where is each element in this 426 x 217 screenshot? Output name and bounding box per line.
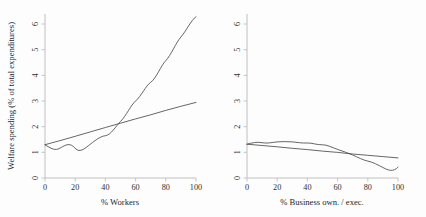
svg-text:20: 20 — [71, 183, 79, 192]
svg-text:5: 5 — [31, 48, 40, 52]
x-tick-marks-left — [45, 178, 196, 182]
svg-text:80: 80 — [364, 183, 372, 192]
y-tick-marks-left — [42, 24, 46, 178]
y-axis-title-welfare-spending: Welfare spending (% of total expenditure… — [6, 22, 16, 170]
y-tick-labels-left: 0 1 2 3 4 5 6 — [31, 22, 40, 180]
x-axis-title-workers: % Workers — [101, 197, 140, 207]
svg-text:0: 0 — [31, 176, 40, 180]
svg-text:6: 6 — [31, 22, 40, 26]
svg-text:40: 40 — [101, 183, 109, 192]
svg-text:0: 0 — [233, 176, 242, 180]
panel-business-owners: 0 1 2 3 4 5 6 0 20 40 — [213, 0, 426, 217]
figure-two-panel-welfare-spending: 0 1 2 3 4 5 6 0 20 40 — [0, 0, 426, 217]
svg-text:5: 5 — [233, 48, 242, 52]
y-tick-labels-right: 0 1 2 3 4 5 6 — [233, 22, 242, 180]
svg-text:3: 3 — [31, 99, 40, 103]
panel-workers: 0 1 2 3 4 5 6 0 20 40 — [0, 0, 213, 217]
curve-left-linear — [45, 102, 196, 144]
svg-text:80: 80 — [162, 183, 170, 192]
svg-text:6: 6 — [233, 22, 242, 26]
svg-text:2: 2 — [31, 125, 40, 129]
y-tick-marks-right — [244, 24, 248, 178]
x-axis-title-business-owners: % Business own. / exec. — [280, 197, 364, 207]
svg-text:2: 2 — [233, 125, 242, 129]
svg-text:20: 20 — [273, 183, 281, 192]
svg-text:3: 3 — [233, 99, 242, 103]
x-tick-marks-right — [247, 178, 398, 182]
svg-text:4: 4 — [31, 73, 40, 77]
svg-text:60: 60 — [132, 183, 140, 192]
x-tick-labels-right: 0 20 40 60 80 100 — [245, 183, 404, 192]
svg-text:40: 40 — [303, 183, 311, 192]
svg-text:100: 100 — [392, 183, 404, 192]
plot-area-workers: 0 1 2 3 4 5 6 0 20 40 — [0, 0, 213, 217]
svg-text:0: 0 — [245, 183, 249, 192]
plot-area-business-owners: 0 1 2 3 4 5 6 0 20 40 — [213, 0, 426, 217]
svg-text:0: 0 — [43, 183, 47, 192]
svg-text:100: 100 — [190, 183, 202, 192]
svg-text:4: 4 — [233, 73, 242, 77]
svg-text:1: 1 — [31, 150, 40, 154]
curve-left-quadratic — [45, 17, 196, 151]
svg-text:60: 60 — [334, 183, 342, 192]
svg-text:1: 1 — [233, 150, 242, 154]
x-tick-labels-left: 0 20 40 60 80 100 — [43, 183, 202, 192]
curve-right-linear — [247, 144, 398, 158]
